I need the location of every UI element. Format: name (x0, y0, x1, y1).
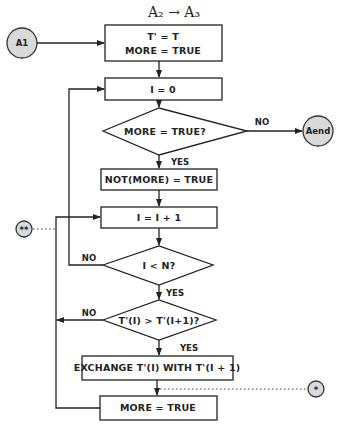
increment-i-box: I = I + 1 (101, 207, 217, 228)
set-i-zero-label: I = 0 (150, 84, 176, 95)
end-connector-label: Aend (306, 126, 330, 136)
set-more-true-box: MORE = TRUE (100, 396, 217, 420)
decision-i-lt-n-diamond: I < N? (103, 246, 213, 285)
decision-compare-label: T'(I) > T'(I+1)? (118, 315, 199, 326)
set-i-zero-box: I = 0 (105, 78, 222, 100)
single-star-label: * (314, 385, 319, 395)
decision-more-diamond: MORE = TRUE? (103, 108, 247, 155)
init-box-line2: MORE = TRUE (125, 45, 201, 56)
double-star-connector: ** (16, 221, 32, 237)
start-connector: A1 (7, 28, 37, 58)
decision-i-lt-n-label: I < N? (143, 260, 176, 271)
decision-more-label: MORE = TRUE? (124, 126, 206, 137)
edge-label-more-yes: YES (170, 157, 189, 167)
init-box: T' = T MORE = TRUE (105, 25, 222, 61)
decision-compare-diamond: T'(I) > T'(I+1)? (103, 300, 216, 340)
init-box-line1: T' = T (147, 31, 179, 42)
edge-label-i-lt-n-yes: YES (165, 288, 184, 298)
single-star-connector: * (308, 381, 324, 397)
edge-label-compare-yes: YES (179, 343, 198, 353)
flowchart: A₂ → A₃ A1 T' = T MORE = TRUE I = 0 MORE… (0, 0, 346, 429)
edge-label-i-lt-n-no: NO (82, 253, 96, 263)
start-connector-label: A1 (16, 38, 29, 48)
set-more-true-label: MORE = TRUE (120, 402, 196, 413)
end-connector: Aend (303, 116, 333, 146)
not-more-box: NOT(MORE) = TRUE (101, 169, 217, 190)
increment-i-label: I = I + 1 (137, 212, 182, 223)
diagram-title: A₂ → A₃ (147, 4, 200, 20)
exchange-label: EXCHANGE T'(I) WITH T'(I + 1) (74, 362, 241, 373)
edge-label-compare-no: NO (82, 308, 96, 318)
double-star-label: ** (20, 225, 29, 235)
edge-label-more-no: NO (255, 117, 269, 127)
not-more-label: NOT(MORE) = TRUE (105, 174, 213, 185)
exchange-box: EXCHANGE T'(I) WITH T'(I + 1) (74, 356, 241, 380)
edge-i-lt-n-no-loop (69, 89, 104, 265)
